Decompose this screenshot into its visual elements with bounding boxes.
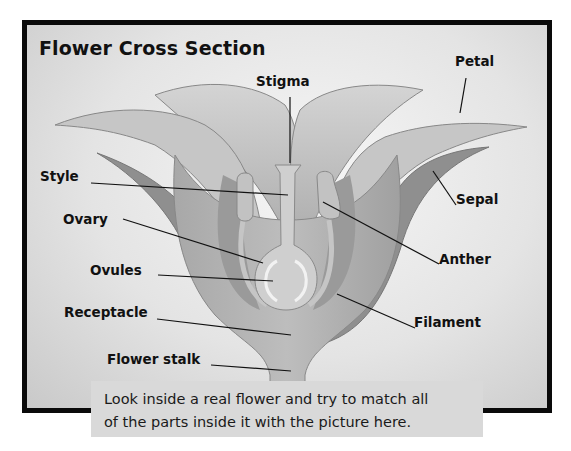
diagram-title: Flower Cross Section [39,37,266,59]
caption-box: Look inside a real flower and try to mat… [91,381,483,437]
label-anther: Anther [439,251,491,267]
label-sepal: Sepal [456,191,498,207]
label-style: Style [40,168,79,184]
label-stigma: Stigma [256,73,310,89]
label-filament: Filament [414,314,481,330]
caption-line-1: Look inside a real flower and try to mat… [104,388,471,411]
caption-line-2: of the parts inside it with the picture … [104,411,471,434]
anther-left [237,173,253,221]
label-petal: Petal [455,53,494,69]
label-ovary: Ovary [63,211,108,227]
label-ovules: Ovules [90,262,142,278]
label-flower-stalk: Flower stalk [107,351,200,367]
label-receptacle: Receptacle [64,304,148,320]
